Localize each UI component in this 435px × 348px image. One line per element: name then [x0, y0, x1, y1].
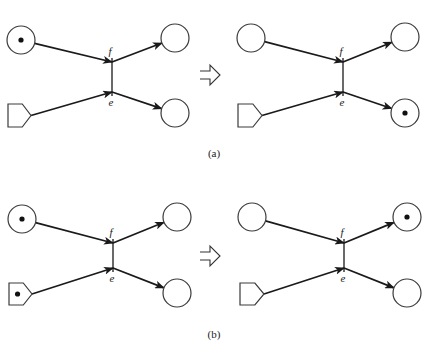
token-dot — [18, 37, 23, 42]
net-after: fe — [238, 203, 421, 307]
input-place — [238, 203, 266, 231]
output-arc-e — [344, 268, 394, 288]
output-place-bottom — [161, 99, 189, 127]
net-before: fe — [7, 24, 189, 127]
input-place — [237, 24, 265, 52]
output-place-bottom — [393, 279, 421, 307]
panel-caption: (a) — [208, 147, 221, 160]
implies-arrow-icon — [200, 246, 220, 266]
token-dot — [404, 214, 409, 219]
implies-arrow-icon — [200, 65, 220, 85]
output-arc-f — [113, 222, 164, 243]
panel-a: fefe(a) — [7, 23, 419, 160]
input-arc-f — [265, 42, 343, 62]
net-before: fe — [8, 203, 191, 307]
output-arc-f — [112, 43, 162, 62]
input-arc-f — [265, 221, 344, 243]
output-place-top — [391, 23, 419, 51]
token-dot — [19, 216, 24, 221]
output-arc-e — [112, 92, 162, 109]
output-arc-f — [344, 222, 394, 243]
input-arc-f — [36, 223, 113, 243]
output-arc-f — [343, 42, 392, 62]
input-arc-e — [31, 92, 112, 116]
output-place-top — [163, 203, 191, 231]
transition-label-e: e — [341, 272, 346, 284]
petri-net-diagram: fefe(a)fefe(b) — [0, 0, 435, 348]
transition-label-f: f — [339, 45, 344, 57]
panel-b: fefe(b) — [8, 203, 421, 341]
token-dot — [402, 110, 407, 115]
input-pentagon-place — [238, 104, 262, 127]
transition-label-f: f — [109, 226, 114, 238]
input-arc-e — [32, 268, 113, 294]
input-arc-f — [35, 43, 112, 62]
transition-label-e: e — [340, 96, 345, 108]
transition-label-e: e — [110, 272, 115, 284]
output-place-top — [161, 24, 189, 52]
transition-label-f: f — [108, 45, 113, 57]
input-pentagon-place — [8, 104, 31, 127]
output-arc-e — [343, 92, 392, 109]
transition-label-f: f — [340, 226, 345, 238]
net-after: fe — [237, 23, 419, 127]
input-arc-e — [264, 268, 344, 294]
output-arc-e — [113, 268, 164, 288]
panel-caption: (b) — [208, 328, 221, 341]
transition-label-e: e — [109, 96, 114, 108]
input-pentagon-place — [240, 283, 264, 305]
token-dot — [15, 291, 20, 296]
input-pentagon-place — [9, 283, 32, 305]
input-arc-e — [262, 92, 343, 116]
output-place-bottom — [163, 279, 191, 307]
